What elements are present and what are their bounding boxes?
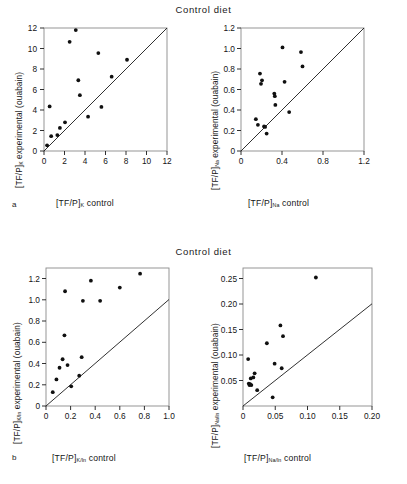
data-points-a-left xyxy=(45,28,129,147)
data-point xyxy=(246,357,250,361)
data-point xyxy=(58,366,62,370)
y-tick-b-right-3: 0.20 xyxy=(211,299,237,309)
y-tick-b-right-4: 0.25 xyxy=(211,274,237,284)
x-tick-b-right-3: 0.15 xyxy=(332,411,348,421)
data-point xyxy=(314,276,318,280)
y-tick-b-left-2: 0.4 xyxy=(19,359,40,369)
y-tick-a-left-5: 10 xyxy=(21,44,37,54)
data-point xyxy=(273,362,277,366)
data-point xyxy=(125,58,129,62)
data-point xyxy=(61,357,65,361)
data-point xyxy=(287,110,291,114)
x-tick-a-left-0: 0 xyxy=(42,156,47,166)
y-axis-label-sub-b-left: K/In xyxy=(16,412,22,421)
x-axis-label-b-right: [TF/P]Na/In control xyxy=(244,453,311,463)
data-point xyxy=(249,383,253,387)
data-point xyxy=(299,50,303,54)
x-axis-label-a-left: [TF/P]K control xyxy=(56,198,114,208)
data-point xyxy=(86,115,90,119)
data-point xyxy=(89,279,93,283)
x-tick-b-left-1: 0.2 xyxy=(65,411,77,421)
x-tick-b-right-2: 0.10 xyxy=(299,411,315,421)
y-tick-b-left-5: 1.0 xyxy=(19,295,40,305)
x-axis-label-sub-b-left: K/In xyxy=(77,457,86,463)
data-point xyxy=(260,78,264,82)
y-tick-a-left-3: 6 xyxy=(26,85,37,95)
panel-row-b: Control diet b [TF/P]K/In experimental (… xyxy=(0,240,407,484)
y-tick-a-right-6: 1.2 xyxy=(214,23,235,33)
data-point xyxy=(78,93,82,97)
plot-panel-b-right: [TF/P]Na/In experimental (ouabain) [TF/P… xyxy=(200,260,407,475)
x-tick-a-left-4: 8 xyxy=(124,156,129,166)
y-tick-a-left-4: 8 xyxy=(26,64,37,74)
panel-row-a: Control diet a [TF/P]K experimental (oua… xyxy=(0,0,407,232)
data-point xyxy=(253,371,257,375)
data-point xyxy=(281,46,285,50)
x-tick-a-left-5: 10 xyxy=(142,156,151,166)
y-tick-a-left-6: 12 xyxy=(21,23,37,33)
x-axis-label-sub-b-right: Na/In xyxy=(269,457,282,463)
y-axis-label-a-left: [TF/P]K experimental (ouabain) xyxy=(14,72,24,188)
data-point xyxy=(76,78,80,82)
data-point xyxy=(63,333,67,337)
scatter-svg-b-right xyxy=(200,260,407,475)
data-points-a-right xyxy=(254,46,304,136)
data-point xyxy=(96,51,100,55)
data-point xyxy=(263,125,267,129)
data-point xyxy=(63,120,67,124)
data-point xyxy=(55,378,59,382)
x-axis-label-suffix-a-left: control xyxy=(84,198,114,208)
y-tick-b-left-3: 0.6 xyxy=(19,337,40,347)
data-point xyxy=(138,272,142,276)
y-tick-a-right-1: 0.2 xyxy=(214,126,235,136)
figure-root: Control diet a [TF/P]K experimental (oua… xyxy=(0,0,407,484)
data-point xyxy=(259,82,263,86)
x-tick-a-left-1: 2 xyxy=(62,156,67,166)
identity-line-a-left xyxy=(44,28,167,151)
x-axis-label-sub-a-left: K xyxy=(81,202,85,208)
data-point xyxy=(280,366,284,370)
y-tick-a-right-5: 1.0 xyxy=(214,44,235,54)
plot-panel-a-left: [TF/P]K experimental (ouabain) [TF/P]K c… xyxy=(0,18,200,218)
x-tick-b-left-3: 0.6 xyxy=(114,411,126,421)
data-point xyxy=(49,134,53,138)
data-point xyxy=(80,355,84,359)
data-point xyxy=(77,374,81,378)
x-axis-label-suffix-a-right: control xyxy=(279,198,309,208)
x-axis-label-b-left: [TF/P]K/In control xyxy=(52,453,116,463)
y-axis-label-sub-a-right: Na xyxy=(214,160,220,167)
data-point xyxy=(55,133,59,137)
y-tick-a-right-3: 0.6 xyxy=(214,85,235,95)
data-point xyxy=(48,105,52,109)
data-point xyxy=(74,28,78,32)
data-point xyxy=(273,103,277,107)
y-tick-b-left-6: 1.2 xyxy=(19,274,40,284)
data-point xyxy=(63,289,67,293)
data-point xyxy=(100,105,104,109)
x-axis-label-suffix-b-left: control xyxy=(86,453,116,463)
x-tick-a-right-1: 0.4 xyxy=(276,156,288,166)
y-tick-b-right-2: 0.15 xyxy=(211,325,237,335)
x-axis-label-sub-a-right: Na xyxy=(273,202,280,208)
y-axis-label-suffix-b-right: experimental (ouabain) xyxy=(210,323,220,412)
x-axis-label-suffix-b-right: control xyxy=(281,453,311,463)
panel-b-title: Control diet xyxy=(0,246,407,257)
data-points-b-left xyxy=(51,272,142,394)
tick-marks-b-left xyxy=(42,279,169,411)
x-tick-b-right-0: 0 xyxy=(241,411,246,421)
y-tick-a-right-0: 0 xyxy=(219,146,235,156)
y-axis-label-sub-b-right: Na/In xyxy=(214,413,220,425)
x-tick-b-left-5: 1.0 xyxy=(163,411,175,421)
x-tick-b-left-2: 0.4 xyxy=(89,411,101,421)
data-point xyxy=(58,126,62,130)
data-point xyxy=(265,132,269,136)
data-point xyxy=(281,334,285,338)
data-point xyxy=(118,286,122,290)
data-point xyxy=(271,395,275,399)
y-axis-label-b-right: [TF/P]Na/In experimental (ouabain) xyxy=(210,323,220,448)
data-point xyxy=(81,299,85,303)
panel-a-title: Control diet xyxy=(0,4,407,15)
y-tick-a-right-4: 0.8 xyxy=(214,64,235,74)
x-tick-a-right-0: 0 xyxy=(239,156,244,166)
data-point xyxy=(283,80,287,84)
